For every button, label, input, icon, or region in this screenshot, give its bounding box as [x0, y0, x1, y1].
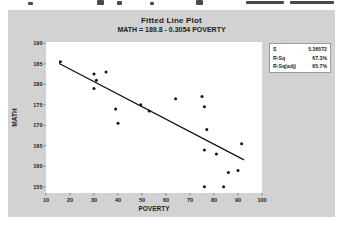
- scatter-point: [203, 148, 206, 151]
- y-axis-title: MATH: [11, 108, 18, 127]
- scatter-point: [201, 95, 204, 98]
- x-tick-label: 40: [115, 197, 121, 203]
- legend-label: R-Sq(adj): [273, 63, 296, 70]
- scatter-point: [93, 87, 96, 90]
- legend-label: R-Sq: [273, 55, 285, 62]
- scatter-point: [59, 60, 62, 63]
- scatter-point: [95, 79, 98, 82]
- scatter-point: [203, 185, 206, 188]
- fitted-line-plot: 1020304050607080901001551601651701751801…: [0, 0, 346, 230]
- x-tick-label: 70: [187, 197, 193, 203]
- legend-row-s: S 5.36572: [273, 46, 327, 53]
- scatter-point: [105, 71, 108, 74]
- x-tick-label: 30: [91, 197, 97, 203]
- legend-value: 67.3%: [312, 55, 327, 62]
- scatter-point: [148, 109, 151, 112]
- y-tick-label: 180: [33, 81, 42, 87]
- y-tick-label: 170: [33, 122, 42, 128]
- x-tick-label: 80: [211, 197, 217, 203]
- legend-row-rsq-adj: R-Sq(adj) 65.7%: [273, 63, 327, 70]
- legend-row-rsq: R-Sq 67.3%: [273, 55, 327, 62]
- legend-value: 65.7%: [312, 63, 327, 70]
- scatter-point: [205, 128, 208, 131]
- scatter-point: [240, 142, 243, 145]
- x-tick-label: 100: [257, 197, 266, 203]
- y-tick-label: 165: [33, 143, 42, 149]
- y-tick-label: 175: [33, 102, 42, 108]
- plot-region: [46, 42, 262, 193]
- legend-box: S 5.36572 R-Sq 67.3% R-Sq(adj) 65.7%: [269, 43, 331, 73]
- scatter-point: [174, 97, 177, 100]
- y-tick-label: 185: [33, 61, 42, 67]
- scatter-point: [117, 122, 120, 125]
- legend-label: S: [273, 46, 276, 53]
- scatter-point: [227, 171, 230, 174]
- x-tick-label: 90: [235, 197, 241, 203]
- x-tick-label: 10: [43, 197, 49, 203]
- y-tick-label: 190: [33, 40, 42, 46]
- x-axis-title: POVERTY: [138, 205, 170, 212]
- y-tick-label: 155: [33, 184, 42, 190]
- screenshot-page: Fitted Line Plot MATH = 189.8 - 0.3054 P…: [0, 0, 346, 230]
- legend-value: 5.36572: [308, 46, 327, 53]
- scatter-point: [203, 105, 206, 108]
- scatter-point: [114, 107, 117, 110]
- scatter-point: [93, 73, 96, 76]
- y-tick-label: 160: [33, 163, 42, 169]
- scatter-point: [237, 169, 240, 172]
- scatter-point: [139, 103, 142, 106]
- x-tick-label: 60: [163, 197, 169, 203]
- scatter-point: [215, 153, 218, 156]
- x-tick-label: 50: [139, 197, 145, 203]
- scatter-point: [222, 185, 225, 188]
- x-tick-label: 20: [67, 197, 73, 203]
